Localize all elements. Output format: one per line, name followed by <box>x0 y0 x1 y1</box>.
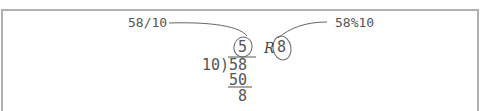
remainder-leader-line <box>278 22 327 38</box>
subtrahend: 50 <box>229 73 247 88</box>
remainder-marker: R <box>264 41 275 56</box>
divisor: 10 <box>202 58 220 73</box>
quotient-expression-label: 58/10 <box>128 16 167 30</box>
division-bracket: ) <box>220 58 229 73</box>
quotient-digit: 5 <box>238 40 247 55</box>
remainder-expression-label: 58%10 <box>335 16 374 30</box>
remainder-digit: 8 <box>277 40 286 55</box>
quotient-leader-line <box>169 23 247 36</box>
difference: 8 <box>238 89 247 104</box>
